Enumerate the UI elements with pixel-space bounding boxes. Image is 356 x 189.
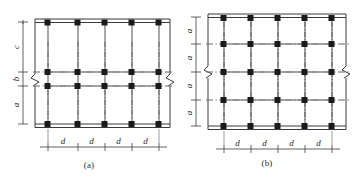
- break-mark-left: [31, 74, 39, 86]
- dim-label-d2-b: d: [262, 138, 267, 148]
- vertical-centerlines: [48, 42, 159, 118]
- dim-label-a3-b: a: [184, 83, 194, 88]
- dim-label-c-a: c: [11, 45, 21, 49]
- dim-label-d1-a: d: [61, 136, 66, 146]
- dim-label-a1-b: a: [184, 28, 194, 33]
- dim-label-d3-a: d: [116, 136, 121, 146]
- dim-label-a4-b: a: [184, 110, 194, 115]
- dim-label-d1-b: d: [235, 138, 240, 148]
- dim-label-a2-b: a: [184, 55, 194, 60]
- figure-caption-b: (b): [178, 158, 356, 168]
- dim-label-d4-a: d: [143, 136, 148, 146]
- figure-caption-a: (a): [0, 160, 178, 170]
- dim-label-a-a: a: [11, 102, 21, 107]
- node-markers: [45, 20, 162, 128]
- dim-label-d4-b: d: [316, 138, 321, 148]
- break-mark-right: [166, 74, 174, 86]
- figure-panel-b: a a a a d d d d (b): [178, 0, 356, 189]
- dim-label-b-a: b: [11, 76, 21, 81]
- vertical-dimension-chain: [18, 20, 28, 124]
- horizontal-dimension-chain: [40, 129, 167, 151]
- dim-label-d2-a: d: [89, 136, 94, 146]
- figure-panel-a: c b a d d d d (a): [0, 0, 178, 189]
- dim-label-d3-b: d: [289, 138, 294, 148]
- figure-sheet: c b a d d d d (a): [0, 0, 356, 189]
